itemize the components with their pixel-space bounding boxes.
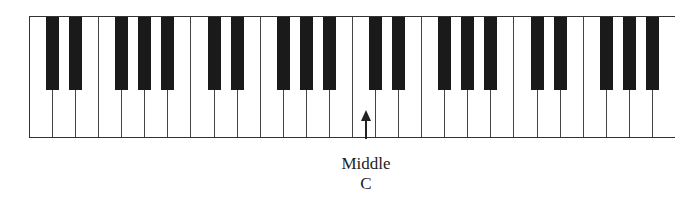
arrow-shaft <box>365 117 367 139</box>
black-key-g-sharp4[interactable] <box>623 17 636 90</box>
label-line-2: C <box>326 174 406 194</box>
black-key-f-sharp3[interactable] <box>438 17 451 90</box>
black-key-c-sharp4[interactable] <box>531 17 544 90</box>
middle-c-label: Middle C <box>326 154 406 194</box>
black-key-d-sharp2[interactable] <box>231 17 244 90</box>
black-key-a-sharp4[interactable] <box>646 17 659 90</box>
black-key-c-sharp2[interactable] <box>208 17 221 90</box>
black-key-f-sharp1[interactable] <box>115 17 128 90</box>
black-key-g-sharp2[interactable] <box>300 17 313 90</box>
black-key-g-sharp1[interactable] <box>138 17 151 90</box>
piano-keyboard <box>29 16 675 138</box>
black-key-a-sharp3[interactable] <box>484 17 497 90</box>
black-key-f-sharp4[interactable] <box>600 17 613 90</box>
black-key-c-sharp1[interactable] <box>46 17 59 90</box>
black-key-a-sharp2[interactable] <box>323 17 336 90</box>
black-key-c-sharp3[interactable] <box>369 17 382 90</box>
black-key-g-sharp3[interactable] <box>461 17 474 90</box>
black-key-a-sharp1[interactable] <box>161 17 174 90</box>
black-key-d-sharp4[interactable] <box>554 17 567 90</box>
black-key-d-sharp1[interactable] <box>69 17 82 90</box>
label-line-1: Middle <box>326 154 406 174</box>
black-key-f-sharp2[interactable] <box>277 17 290 90</box>
black-key-d-sharp3[interactable] <box>392 17 405 90</box>
